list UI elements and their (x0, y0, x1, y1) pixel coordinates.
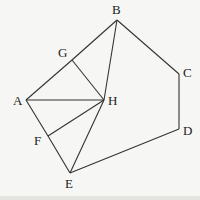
label-d: D (183, 123, 192, 138)
edge-g-b (72, 20, 117, 60)
label-b: B (112, 2, 121, 17)
edge-b-h (104, 20, 117, 100)
label-c: C (183, 65, 192, 80)
label-g: G (58, 45, 67, 60)
edge-e-f (48, 136, 70, 173)
geometry-diagram: A B C D E F G H (0, 0, 200, 200)
edge-a-g (26, 60, 72, 100)
edge-g-h (72, 60, 104, 100)
edge-d-e (70, 129, 179, 173)
label-a: A (13, 93, 23, 108)
label-h: H (108, 93, 117, 108)
vertex-labels: A B C D E F G H (13, 2, 192, 191)
label-f: F (34, 133, 41, 148)
edge-f-a (26, 100, 48, 136)
edge-b-c (117, 20, 179, 74)
label-e: E (65, 176, 73, 191)
edges (26, 20, 179, 173)
cropped-caption-line (0, 196, 200, 200)
